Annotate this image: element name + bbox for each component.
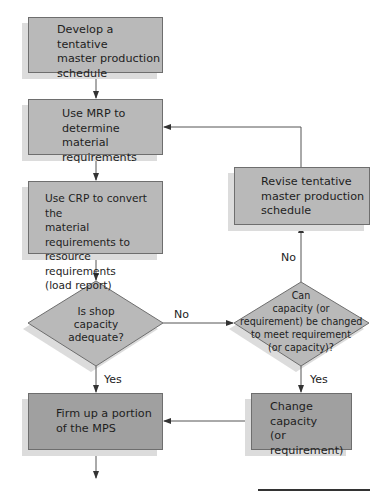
node-text-line: capacity [270, 415, 351, 430]
node-text-line: Use MRP to [62, 107, 162, 122]
node-text-line: Firm up a portion [56, 407, 162, 422]
node-text-line: determine material [62, 122, 162, 151]
node-text-line: capacity (or [240, 302, 362, 315]
process-firm-up-mps: Firm up a portion of the MPS [28, 393, 163, 450]
node-text-line: Revise tentative [261, 175, 369, 190]
process-revise-mps: Revise tentative master production sched… [234, 167, 370, 225]
node-text-line: (load report) [45, 278, 162, 293]
edge-label-change-yes: Yes [310, 373, 328, 386]
node-text-line: (or capacity)? [240, 341, 362, 354]
decision-shop-capacity: Is shop capacity adequate? [56, 305, 136, 344]
node-text-line: Is shop [56, 305, 136, 318]
node-text-line: Can [240, 289, 362, 302]
process-use-mrp: Use MRP to determine material requiremen… [28, 99, 163, 155]
node-text-line: master production [261, 190, 369, 205]
edge-label-shop-yes: Yes [104, 373, 122, 386]
decision-can-change: Can capacity (or requirement) be changed… [240, 289, 362, 354]
node-text-line: schedule [261, 204, 369, 219]
node-text-line: requirements [62, 151, 162, 166]
node-text-line: of the MPS [56, 422, 162, 437]
node-text-line: requirement) be changed [240, 315, 362, 328]
node-text-line: material requirements to [45, 220, 162, 249]
node-text-line: master production [57, 52, 162, 67]
edge-label-change-no: No [281, 251, 296, 264]
node-text-line: Develop a tentative [57, 23, 162, 52]
node-text-line: (or requirement) [270, 429, 351, 458]
node-text-line: adequate? [56, 331, 136, 344]
node-text-line: schedule [57, 67, 162, 82]
process-develop-mps: Develop a tentative master production sc… [28, 17, 163, 73]
edge-label-shop-no: No [174, 308, 189, 321]
process-change-capacity: Change capacity (or requirement) [251, 393, 352, 450]
node-text-line: Use CRP to convert the [45, 191, 162, 220]
node-text-line: capacity [56, 318, 136, 331]
process-use-crp: Use CRP to convert the material requirem… [28, 181, 163, 254]
node-text-line: resource requirements [45, 249, 162, 278]
node-text-line: Change [270, 400, 351, 415]
node-text-line: to meet requirement [240, 328, 362, 341]
